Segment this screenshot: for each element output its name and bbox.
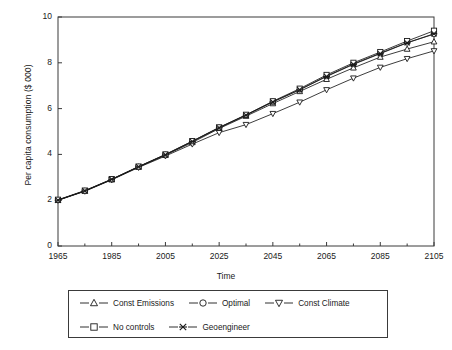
y-tick-label: 6 xyxy=(26,103,52,113)
chart-legend: Const EmissionsOptimalConst Climate No c… xyxy=(68,290,388,338)
legend-marker-circle-icon xyxy=(188,296,218,310)
y-tick-label: 4 xyxy=(26,148,52,158)
y-tick-label: 8 xyxy=(26,57,52,67)
chart-figure: Per capita consumption ($ 000) Time 0246… xyxy=(0,0,452,350)
legend-item-const-emissions[interactable]: Const Emissions xyxy=(79,296,174,310)
y-tick-label: 0 xyxy=(26,240,52,250)
x-tick-label: 2005 xyxy=(145,251,185,261)
legend-marker-triangle-up-icon xyxy=(79,296,109,310)
y-tick-label: 10 xyxy=(26,11,52,21)
legend-marker-triangle-down-icon xyxy=(264,296,294,310)
legend-item-label: No controls xyxy=(113,323,154,332)
legend-item-optimal[interactable]: Optimal xyxy=(188,296,250,310)
y-tick-label: 2 xyxy=(26,194,52,204)
x-tick-label: 1965 xyxy=(38,251,78,261)
legend-marker-square-icon xyxy=(79,320,109,334)
x-tick-label: 2085 xyxy=(360,251,400,261)
legend-item-const-climate[interactable]: Const Climate xyxy=(264,296,349,310)
x-tick-label: 2045 xyxy=(253,251,293,261)
x-tick-label: 2065 xyxy=(307,251,347,261)
x-axis-title: Time xyxy=(0,271,452,281)
legend-row-2: No controlsGeoengineer xyxy=(69,315,387,339)
legend-row-1: Const EmissionsOptimalConst Climate xyxy=(69,291,387,315)
x-tick-label: 2025 xyxy=(199,251,239,261)
legend-marker-x-icon xyxy=(168,320,198,334)
legend-item-label: Const Emissions xyxy=(113,299,174,308)
legend-item-label: Const Climate xyxy=(298,299,349,308)
legend-item-label: Geoengineer xyxy=(202,323,249,332)
legend-item-geoengineer[interactable]: Geoengineer xyxy=(168,320,249,334)
legend-item-label: Optimal xyxy=(222,299,250,308)
x-tick-label: 2105 xyxy=(414,251,452,261)
legend-item-no-controls[interactable]: No controls xyxy=(79,320,154,334)
x-tick-label: 1985 xyxy=(92,251,132,261)
